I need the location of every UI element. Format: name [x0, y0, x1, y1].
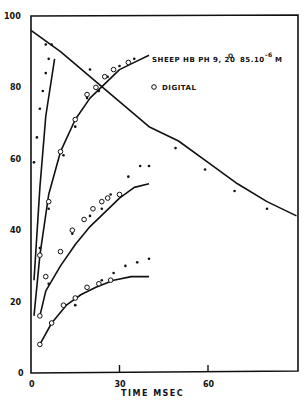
filled-data-point — [39, 108, 42, 111]
filled-data-point — [174, 147, 177, 150]
filled-data-point — [204, 168, 207, 171]
digital-data-point — [38, 253, 43, 258]
filled-data-point — [266, 207, 269, 210]
filled-data-point — [233, 190, 236, 193]
digital-data-point — [85, 285, 90, 290]
y-tick-label: 20 — [10, 298, 22, 307]
filled-data-point — [50, 43, 53, 46]
legend-sample-label: SHEEP HB PH 9, 20 — [152, 56, 235, 64]
y-tick-label: 60 — [10, 155, 22, 164]
filled-data-point — [47, 58, 50, 61]
filled-data-point — [109, 193, 112, 196]
filled-data-point — [44, 72, 47, 75]
filled-data-point — [62, 154, 65, 157]
digital-data-point — [100, 199, 105, 204]
x-tick-label: 60 — [203, 380, 215, 389]
x-tick-label: 0 — [29, 380, 35, 389]
y-tick-label: 80 — [10, 83, 22, 92]
filled-data-point — [98, 90, 101, 93]
filled-data-point — [47, 282, 50, 285]
filled-data-point — [127, 175, 130, 178]
filled-data-point — [139, 165, 142, 168]
filled-data-point — [148, 257, 151, 260]
filled-data-point — [89, 215, 92, 218]
filled-data-point — [39, 247, 42, 250]
filled-data-point — [36, 136, 39, 139]
digital-data-point — [126, 60, 131, 65]
legend-degree: O — [228, 52, 234, 59]
y-tick-label: 100 — [4, 12, 21, 21]
filled-data-point — [44, 43, 47, 46]
open-circle-legend-icon — [152, 85, 157, 90]
filled-data-point — [136, 261, 139, 264]
chart: 02040608010003060 SHEEP HB PH 9, 20 O 85… — [0, 0, 305, 405]
filled-data-point — [89, 68, 92, 71]
x-tick-label: 30 — [115, 380, 127, 389]
filled-data-point — [112, 272, 115, 275]
digital-data-point — [73, 296, 78, 301]
digital-data-point — [82, 217, 87, 222]
filled-data-point — [47, 207, 50, 210]
filled-data-point — [118, 65, 121, 68]
filled-data-point — [33, 161, 36, 164]
digital-data-point — [49, 321, 54, 326]
filled-data-point — [101, 207, 104, 210]
digital-data-point — [58, 149, 63, 154]
digital-data-point — [91, 206, 96, 211]
legend-concentration: 85.10 — [240, 56, 265, 64]
x-axis-label: TIME MSEC — [121, 389, 184, 398]
digital-data-point — [108, 278, 113, 283]
legend-exponent: -6 — [265, 51, 273, 58]
legend-digital-label: DIGITAL — [162, 84, 196, 92]
digital-data-point — [58, 249, 63, 254]
digital-data-point — [117, 192, 122, 197]
y-tick-label: 40 — [10, 226, 22, 235]
digital-data-point — [94, 85, 99, 90]
digital-data-point — [85, 92, 90, 97]
legend-unit: M — [275, 56, 282, 64]
digital-data-point — [43, 274, 48, 279]
digital-data-point — [105, 196, 110, 201]
y-tick-label: 0 — [18, 369, 24, 378]
filled-data-point — [101, 279, 104, 282]
digital-data-point — [73, 117, 78, 122]
filled-data-point — [124, 265, 127, 268]
digital-data-point — [46, 199, 51, 204]
digital-data-point — [38, 342, 43, 347]
filled-data-point — [42, 90, 45, 93]
digital-data-point — [70, 228, 75, 233]
digital-data-point — [102, 74, 107, 79]
digital-data-point — [97, 281, 102, 286]
digital-data-point — [111, 67, 116, 72]
digital-data-point — [38, 314, 43, 319]
filled-data-point — [74, 125, 77, 128]
filled-data-point — [74, 304, 77, 307]
filled-data-point — [148, 165, 151, 168]
filled-data-point — [133, 58, 136, 61]
digital-data-point — [61, 303, 66, 308]
